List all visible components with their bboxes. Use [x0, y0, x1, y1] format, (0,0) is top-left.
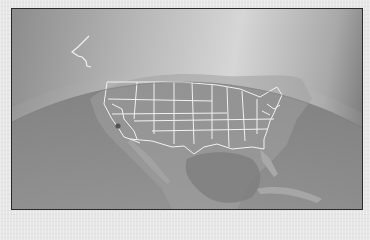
globe-illustration: [12, 9, 362, 209]
location-marker: [115, 123, 120, 128]
globe-image-frame: [11, 8, 363, 210]
alaska-border: [72, 36, 91, 67]
